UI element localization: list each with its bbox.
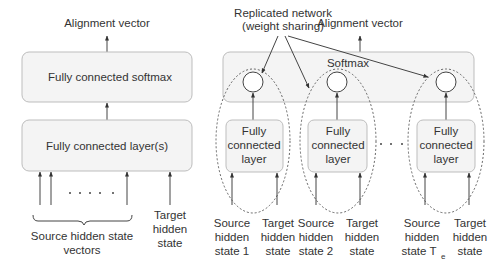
module-2-node xyxy=(327,72,347,92)
right-output-label: Alignment vector xyxy=(317,17,403,29)
svg-text:Target: Target xyxy=(262,217,295,229)
right-ellipsis-dots xyxy=(380,143,403,145)
left-diagram: Alignment vector Fully connected softmax… xyxy=(22,17,192,256)
svg-text:hidden: hidden xyxy=(215,231,250,243)
source-label-line2: vectors xyxy=(63,244,100,256)
svg-text:Fully: Fully xyxy=(326,125,351,137)
target-label-line1: Target xyxy=(154,209,187,221)
svg-text:Fully: Fully xyxy=(434,125,459,137)
svg-text:Source: Source xyxy=(214,217,250,229)
annotation-line2: (weight sharing) xyxy=(242,20,324,32)
module-1-node xyxy=(243,72,263,92)
svg-text:hidden: hidden xyxy=(261,231,296,243)
svg-text:state: state xyxy=(350,245,375,257)
svg-text:connected: connected xyxy=(419,139,472,151)
svg-text:state: state xyxy=(458,245,483,257)
left-softmax-label: Fully connected softmax xyxy=(48,71,172,83)
svg-text:connected: connected xyxy=(311,139,364,151)
target-label-line3: state xyxy=(158,237,183,249)
target-label-line2: hidden xyxy=(153,223,188,235)
svg-text:connected: connected xyxy=(227,139,280,151)
svg-text:state: state xyxy=(266,245,291,257)
svg-text:Source: Source xyxy=(404,217,440,229)
svg-text:Target: Target xyxy=(454,217,487,229)
svg-text:hidden: hidden xyxy=(345,231,380,243)
svg-text:Target: Target xyxy=(346,217,379,229)
svg-text:Fully: Fully xyxy=(242,125,267,137)
svg-text:hidden: hidden xyxy=(405,231,440,243)
source-label-line1: Source hidden state xyxy=(31,230,133,242)
module-3-node xyxy=(436,72,456,92)
left-ellipsis-dots xyxy=(69,192,114,194)
svg-text:state 2: state 2 xyxy=(299,245,334,257)
attention-diagram: Alignment vector Fully connected softmax… xyxy=(0,0,504,268)
left-fc-label: Fully connected layer(s) xyxy=(46,140,168,152)
source-brace xyxy=(33,215,132,225)
svg-text:layer: layer xyxy=(326,153,351,165)
svg-text:Source: Source xyxy=(298,217,334,229)
svg-text:hidden: hidden xyxy=(299,231,334,243)
svg-text:e: e xyxy=(441,252,446,261)
svg-text:hidden: hidden xyxy=(453,231,488,243)
svg-text:state T: state T xyxy=(402,245,437,257)
right-softmax-label: Softmax xyxy=(327,57,369,69)
svg-text:layer: layer xyxy=(242,153,267,165)
svg-text:state 1: state 1 xyxy=(215,245,250,257)
left-output-label: Alignment vector xyxy=(64,17,150,29)
svg-text:layer: layer xyxy=(434,153,459,165)
right-diagram: Replicated network (weight sharing) Alig… xyxy=(214,7,487,261)
